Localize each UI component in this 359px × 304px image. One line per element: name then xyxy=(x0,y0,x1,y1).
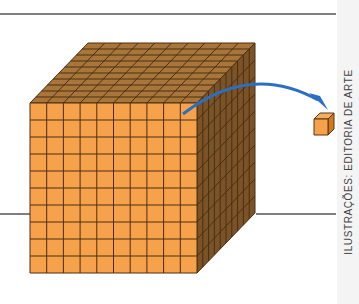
unit-cube xyxy=(314,113,334,135)
cube-diagram xyxy=(0,0,359,304)
large-cube xyxy=(30,43,255,273)
